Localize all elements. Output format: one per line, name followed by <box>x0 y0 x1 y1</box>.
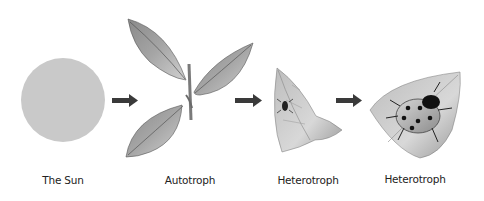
node-label-heterotroph-2: Heterotroph <box>365 173 465 185</box>
diagram-canvas <box>0 0 484 201</box>
arrow-right-icon <box>112 94 138 107</box>
arrow-right-icon <box>336 94 362 107</box>
ladybug-on-leaf-icon <box>370 72 460 158</box>
food-chain-diagram: The Sun Autotroph Heterotroph Heterotrop… <box>0 0 484 201</box>
plant-leaves-icon <box>126 19 253 157</box>
arrow-right-icon <box>235 94 262 107</box>
node-label-heterotroph-1: Heterotroph <box>258 174 358 186</box>
aphid-on-leaf-icon <box>274 68 342 152</box>
node-label-sun: The Sun <box>13 174 113 186</box>
node-label-autotroph: Autotroph <box>140 174 240 186</box>
sun-icon <box>21 58 105 142</box>
